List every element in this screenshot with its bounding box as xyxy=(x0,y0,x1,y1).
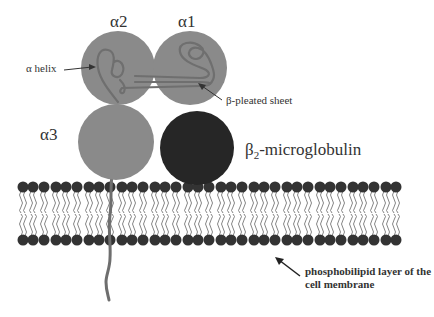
alpha2-label: α2 xyxy=(110,12,127,32)
alpha3-domain xyxy=(78,104,154,180)
lipid-tail xyxy=(261,214,264,236)
lipid-head xyxy=(171,182,182,193)
lipid-tail xyxy=(331,191,334,213)
lipid-head xyxy=(325,182,336,193)
lipid-tail xyxy=(123,191,126,213)
lipid-tail xyxy=(166,191,169,213)
lipid-tail xyxy=(67,214,70,236)
lipid-tail xyxy=(276,214,279,236)
lipid-tail xyxy=(393,191,396,213)
lipid-tail xyxy=(298,191,301,213)
lipid-tail xyxy=(239,214,242,236)
lipid-tail xyxy=(90,191,93,213)
lipid-tail xyxy=(243,191,246,213)
lipid-tail xyxy=(210,191,213,213)
lipid-head xyxy=(94,182,105,193)
lipid-tail xyxy=(24,214,27,236)
lipid-head xyxy=(336,235,347,246)
membrane-arrow xyxy=(275,257,300,276)
lipid-tail xyxy=(294,214,297,236)
alpha3-label: α3 xyxy=(40,125,57,145)
beta2-microglobulin-domain xyxy=(160,111,234,185)
lipid-head xyxy=(204,235,215,246)
lipid-tail xyxy=(218,214,221,236)
lipid-head xyxy=(216,182,227,193)
lipid-tail xyxy=(140,214,143,236)
lipid-tail xyxy=(272,214,275,236)
lipid-head xyxy=(303,235,314,246)
lipid-tail xyxy=(133,191,136,213)
lipid-tail xyxy=(156,214,159,236)
lipid-head xyxy=(160,182,171,193)
lipid-tail xyxy=(232,214,235,236)
lipid-tail xyxy=(57,191,60,213)
lipid-tail xyxy=(309,214,312,236)
lipid-tail xyxy=(185,214,188,236)
lipid-tail xyxy=(309,191,312,213)
lipid-tail xyxy=(57,214,60,236)
lipid-tail xyxy=(41,214,44,236)
membrane-label-line1: phosphobilipid layer of the xyxy=(305,265,431,278)
lipid-head xyxy=(237,182,248,193)
lipid-head xyxy=(391,235,402,246)
lipid-tail xyxy=(294,191,297,213)
lipid-tail xyxy=(251,214,254,236)
lipid-tail xyxy=(173,191,176,213)
lipid-tail xyxy=(195,214,198,236)
lipid-tail xyxy=(321,214,324,236)
lipid-head xyxy=(369,235,380,246)
lipid-tail xyxy=(276,191,279,213)
lipid-head xyxy=(72,182,83,193)
lipid-tail xyxy=(288,214,291,236)
lipid-head xyxy=(160,235,171,246)
lipid-tail xyxy=(53,191,56,213)
lipid-head xyxy=(84,235,95,246)
lipid-tail xyxy=(375,214,378,236)
lipid-head xyxy=(127,182,138,193)
lipid-head xyxy=(369,182,380,193)
lipid-head xyxy=(303,182,314,193)
lipid-head xyxy=(150,235,161,246)
lipid-tail xyxy=(206,214,209,236)
lipid-head xyxy=(358,235,369,246)
lipid-tail xyxy=(123,214,126,236)
lipid-tail xyxy=(371,191,374,213)
lipid-tail xyxy=(162,214,165,236)
lipid-head xyxy=(292,182,303,193)
lipid-head xyxy=(61,182,72,193)
lipid-tail xyxy=(338,214,341,236)
lipid-tail xyxy=(265,191,268,213)
lipid-tail xyxy=(375,191,378,213)
lipid-head xyxy=(171,235,182,246)
lipid-head xyxy=(117,182,128,193)
lipid-tail xyxy=(67,191,70,213)
lipid-tail xyxy=(199,191,202,213)
lipid-head xyxy=(72,235,83,246)
lipid-head xyxy=(193,235,204,246)
lipid-head xyxy=(138,235,149,246)
lipid-tail xyxy=(232,191,235,213)
lipid-tail xyxy=(119,191,122,213)
lipid-tail xyxy=(199,214,202,236)
lipid-tail xyxy=(383,214,386,236)
lipid-tail xyxy=(228,214,231,236)
lipid-head xyxy=(28,235,39,246)
lipid-tail xyxy=(331,214,334,236)
lipid-tail xyxy=(152,191,155,213)
lipid-tail xyxy=(350,191,353,213)
lipid-head xyxy=(127,235,138,246)
lipid-head xyxy=(282,235,293,246)
lipid-head xyxy=(381,182,392,193)
lipid-tail xyxy=(86,191,89,213)
lipid-tail xyxy=(317,191,320,213)
lipid-head xyxy=(117,235,128,246)
lipid-tail xyxy=(162,191,165,213)
lipid-tail xyxy=(387,214,390,236)
lipid-tail xyxy=(228,191,231,213)
lipid-head xyxy=(237,235,248,246)
lipid-head xyxy=(270,182,281,193)
lipid-tail xyxy=(284,214,287,236)
lipid-tail xyxy=(251,191,254,213)
lipid-tail xyxy=(185,191,188,213)
lipid-tail xyxy=(342,214,345,236)
